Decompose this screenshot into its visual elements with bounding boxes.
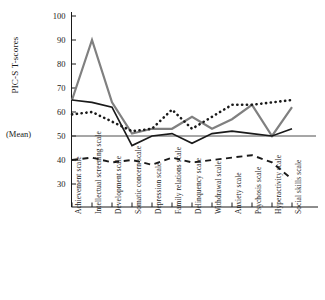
y-tick-label: 40	[57, 155, 66, 165]
x-tick-label: Intellectual screening scale	[95, 128, 103, 214]
y-tick-label: 60	[57, 107, 66, 117]
x-tick-label: Delinquency scale	[195, 128, 203, 214]
x-tick-label: Hyperactivity scale	[275, 128, 283, 214]
x-tick-label: Social skills scale	[295, 128, 303, 214]
x-tick-label: Anxiety scale	[235, 128, 243, 214]
y-tick-label: 70	[57, 83, 66, 93]
x-tick-label: Somatic concern scale	[135, 128, 143, 214]
chart-container: PIC-S T-scores (Mean) 30405060708090100 …	[0, 0, 325, 300]
x-tick-label: Family relations scale	[175, 128, 183, 214]
y-tick-label: 50	[57, 131, 66, 141]
x-tick-label: Development scale	[115, 128, 123, 214]
series-line-gray-solid-line	[72, 40, 292, 136]
y-tick-label: 90	[57, 35, 66, 45]
y-tick-label: 30	[57, 179, 66, 189]
x-tick-label: Achievement scale	[75, 128, 83, 214]
x-tick-label: Psychosis scale	[255, 128, 263, 214]
y-tick-label: 80	[57, 59, 66, 69]
y-tick-label: 100	[53, 11, 66, 21]
x-axis-labels: Achievement scaleIntellectual screening …	[0, 212, 325, 300]
x-tick-label: Withdrawal scale	[215, 128, 223, 214]
x-tick-label: Depression scale	[155, 128, 163, 214]
